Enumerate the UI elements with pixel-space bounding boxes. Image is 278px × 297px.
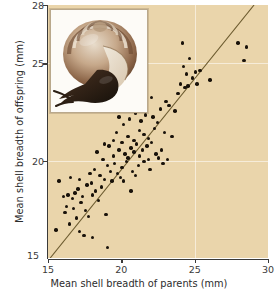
snail-photograph [50,9,148,113]
data-point [141,148,144,151]
data-point [236,41,239,44]
data-point [154,152,157,155]
data-point [68,222,71,225]
data-point [142,133,145,136]
data-point [186,84,189,87]
data-point [91,193,94,196]
data-point [138,154,141,157]
data-point [98,174,101,177]
data-point [242,59,245,62]
data-point [117,115,120,118]
data-point [90,181,93,184]
data-point [63,211,66,214]
data-point [129,146,132,149]
x-axis-title: Mean shell breadth of parents (mm) [0,278,278,289]
y-axis-title: Mean shell breadth of offspring (mm) [14,7,25,257]
data-point [164,100,167,103]
y-tick-label: 25 [32,58,44,69]
data-point [176,92,179,95]
data-point [159,107,162,110]
data-point [109,170,112,173]
x-tick [195,259,196,263]
data-point [100,185,103,188]
data-point [112,154,115,157]
data-point [195,82,198,85]
x-tick-label: 15 [42,264,54,275]
data-point [103,142,106,145]
x-tick-label: 25 [189,264,201,275]
data-point [88,172,91,175]
plot-area [48,5,268,258]
data-point [208,78,211,81]
data-point [126,156,129,159]
data-point [66,193,69,196]
y-axis-origin-label: 15 [27,250,39,261]
y-tick-label: 20 [32,155,44,166]
x-tick [268,259,269,263]
data-point [128,117,131,120]
data-point [93,168,96,171]
x-tick-label: 30 [262,264,274,275]
data-point [194,70,197,73]
data-point [106,246,109,249]
data-point [179,82,182,85]
data-point [198,69,201,72]
data-point [123,152,126,155]
data-point [79,201,82,204]
data-point [115,131,118,134]
data-point [73,191,76,194]
data-point [112,139,115,142]
data-point [139,119,142,122]
data-point [132,150,135,153]
data-point [82,234,85,237]
data-point [110,179,113,182]
data-point [167,104,170,107]
x-tick [48,259,49,263]
data-point [134,174,137,177]
y-tick-label: 28 [32,0,44,11]
data-point [150,141,153,144]
data-point [151,115,154,118]
data-point [87,215,90,218]
data-point [245,45,248,48]
y-axis-line [47,5,48,259]
data-point [173,109,176,112]
data-point [95,150,98,153]
x-tick [121,259,122,263]
data-point [122,179,125,182]
data-point [129,189,132,192]
data-point [148,168,151,171]
data-point [145,144,148,147]
data-point [65,205,68,208]
data-point [170,135,173,138]
data-point [78,178,81,181]
x-tick-label: 20 [115,264,127,275]
snail-illustration [51,10,147,112]
data-point [85,183,88,186]
data-point [103,178,106,181]
data-point [94,189,97,192]
data-point [57,179,60,182]
data-point [54,228,57,231]
data-point [157,156,160,159]
data-point [76,187,79,190]
x-axis-line [48,259,269,260]
data-point [144,113,147,116]
data-point [181,41,184,44]
data-point [131,170,134,173]
data-point [117,148,120,151]
data-point [107,144,110,147]
data-point [126,135,129,138]
data-point [191,76,194,79]
data-point [120,166,123,169]
scatter-plot-figure: 15202530202528 15 Mean shell breadth of … [0,0,278,297]
data-point [84,209,87,212]
data-point [104,213,107,216]
data-point [120,141,123,144]
